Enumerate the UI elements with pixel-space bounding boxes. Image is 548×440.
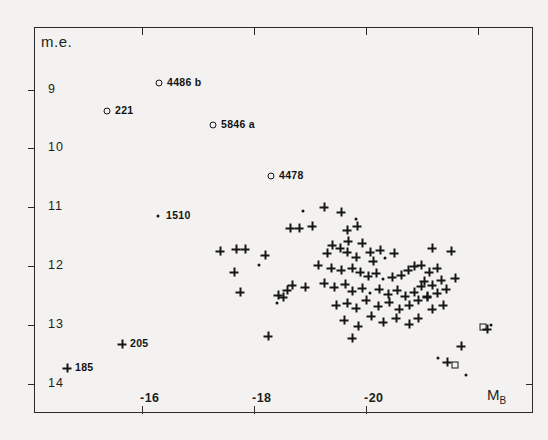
data-point-plus [457,342,466,351]
data-point-dot [465,374,468,377]
figure-canvas: m.e. MB 91011121314-16-18-20 4486 b22158… [0,0,548,440]
data-point-plus [372,269,381,278]
data-point-plus [358,239,367,248]
y-tick-9 [28,90,35,91]
data-point-circle [210,122,217,129]
data-point-plus [405,320,414,329]
data-point-plus [451,274,460,283]
data-point-plus [379,318,388,327]
y-tick-12 [28,266,35,267]
data-point-dot [258,264,261,267]
data-point-plus [362,296,371,305]
data-point-plus [288,281,297,290]
data-point-plus [286,224,295,233]
data-point-plus [216,247,225,256]
point-label-221: 221 [115,104,133,116]
data-point-plus [369,257,378,266]
data-point-plus [401,292,410,301]
data-point-plus [63,364,72,373]
data-point-plus [367,312,376,321]
data-point-dot [157,215,160,218]
x-tick-top-1 [254,27,255,35]
x-axis-title: MB [487,386,506,406]
data-point-plus [348,287,357,296]
y-tick-label-9: 9 [48,82,56,96]
data-point-plus [376,246,385,255]
x-tick-top-0 [142,27,143,35]
x-axis-title-subscript: B [500,395,507,406]
data-point-plus [340,316,349,325]
data-point-plus [374,302,383,311]
y-tick-right-14 [526,384,533,385]
x-tick--18 [254,406,255,414]
data-point-plus [308,222,317,231]
data-point-dot [384,257,387,260]
data-point-circle [104,108,111,115]
point-label-205: 205 [130,337,148,349]
data-point-plus [437,276,446,285]
data-point-plus [337,208,346,217]
data-point-dot [355,218,358,221]
data-point-plus [343,226,352,235]
x-tick--16 [142,406,143,414]
x-tick--20 [366,406,367,414]
point-label-185: 185 [75,361,93,373]
data-point-plus [314,261,323,270]
data-point-plus [423,293,432,302]
data-point-plus [323,249,332,258]
data-point-plus [428,244,437,253]
data-point-plus [241,245,250,254]
data-point-plus [388,273,397,282]
data-point-plus [353,222,362,231]
data-point-plus [261,251,270,260]
data-point-plus [447,247,456,256]
data-point-plus [352,253,361,262]
data-point-dot [276,302,279,305]
y-tick-11 [28,207,35,208]
data-point-plus [330,283,339,292]
data-point-square [452,362,459,369]
data-point-dot [302,210,305,213]
data-point-plus [385,298,394,307]
plot-frame [34,27,533,413]
data-point-plus [392,314,401,323]
data-point-plus [483,325,492,334]
data-point-circle [156,80,163,87]
y-tick-label-11: 11 [48,199,63,213]
data-point-plus [395,305,404,314]
data-point-plus [443,358,452,367]
data-point-plus [230,268,239,277]
data-point-plus [433,289,442,298]
data-point-dot [382,278,385,281]
data-point-plus [337,266,346,275]
data-point-plus [354,322,363,331]
data-point-plus [439,301,448,310]
point-label-4478: 4478 [279,169,304,181]
data-point-plus [236,288,245,297]
data-point-plus [405,301,414,310]
data-point-plus [232,245,241,254]
data-point-plus [332,301,341,310]
data-point-plus [366,248,375,257]
x-tick-label--16: -16 [140,391,160,405]
data-point-plus [344,237,353,246]
y-tick-label-10: 10 [48,140,64,154]
data-point-plus [348,334,357,343]
y-tick-10 [28,148,35,149]
y-axis-title: m.e. [41,33,72,50]
y-tick-label-13: 13 [48,317,64,331]
point-label-5846-a: 5846 a [221,118,255,130]
data-point-plus [343,299,352,308]
data-point-plus [414,314,423,323]
data-point-plus [264,332,273,341]
y-tick-14 [28,384,35,385]
data-point-plus [442,285,451,294]
y-tick-label-12: 12 [48,258,64,272]
data-point-plus [358,284,367,293]
data-point-plus [414,296,423,305]
data-point-plus [352,304,361,313]
x-tick-top-3 [478,27,479,35]
x-axis-title-base: M [487,386,500,403]
data-point-plus [390,249,399,258]
point-label-4486-b: 4486 b [167,76,202,88]
